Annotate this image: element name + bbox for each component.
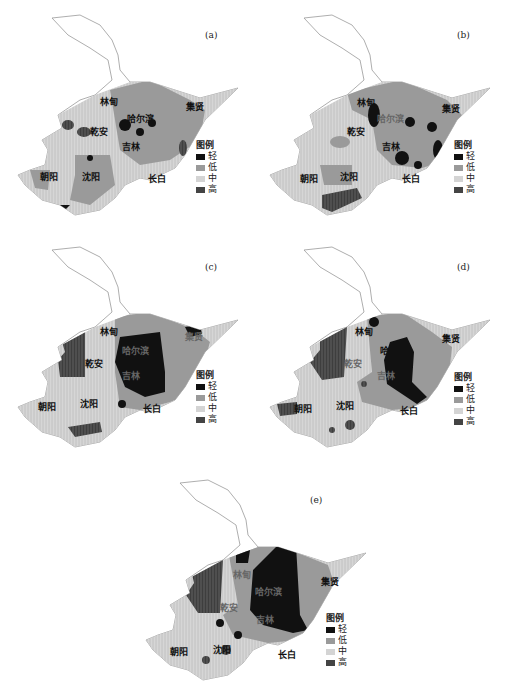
city-qianan: 乾安: [344, 357, 362, 370]
city-changbai: 长白: [402, 172, 420, 185]
city-jixian: 集贤: [442, 102, 460, 115]
swatch-icon: [454, 187, 463, 193]
city-jilin: 吉林: [122, 369, 140, 382]
legend-item-light: 轻: [454, 151, 475, 162]
legend-title: 图例: [326, 613, 347, 624]
legend-item-mid: 中: [196, 403, 217, 414]
city-linxian: 林甸: [355, 325, 373, 338]
legend-item-low: 低: [196, 392, 217, 403]
city-chaoyang: 朝阳: [294, 402, 312, 415]
map-panel-e: (e) 林甸 哈尔滨 集贤 乾安 吉林 朝阳 沈阳 长白 图例 轻 低 中 高: [128, 465, 378, 690]
swatch-icon: [196, 176, 205, 182]
legend: 图例 轻 低 中 高: [196, 140, 217, 195]
swatch-icon: [326, 627, 335, 633]
city-jixian: 集贤: [185, 330, 203, 343]
legend-item-mid: 中: [454, 405, 475, 416]
panel-label: (c): [205, 262, 217, 272]
city-linxian: 林甸: [100, 325, 118, 338]
city-linxian: 林甸: [233, 568, 251, 581]
legend: 图例 轻 低 中 高: [454, 140, 475, 195]
city-chaoyang: 朝阳: [170, 645, 188, 658]
city-shenyang: 沈阳: [80, 397, 98, 410]
map-panel-d: (d) 林甸 哈尔滨 集贤 乾安 吉林 朝阳 沈阳 长白 图例 轻 低 中 高: [252, 232, 502, 457]
swatch-icon: [196, 187, 205, 193]
swatch-icon: [454, 408, 463, 414]
city-chaoyang: 朝阳: [40, 170, 58, 183]
swatch-icon: [196, 395, 205, 401]
city-chaoyang: 朝阳: [38, 400, 56, 413]
city-shenyang: 沈阳: [82, 170, 100, 183]
swatch-icon: [326, 638, 335, 644]
city-harbin: 哈尔滨: [380, 344, 407, 357]
city-jilin: 吉林: [377, 369, 395, 382]
legend-item-low: 低: [326, 635, 347, 646]
legend-item-high: 高: [196, 184, 217, 195]
swatch-icon: [454, 397, 463, 403]
city-chaoyang: 朝阳: [300, 172, 318, 185]
legend-item-light: 轻: [454, 383, 475, 394]
city-shenyang: 沈阳: [336, 399, 354, 412]
legend-item-high: 高: [326, 657, 347, 668]
panel-label: (d): [457, 262, 470, 272]
city-qianan: 乾安: [85, 357, 103, 370]
city-jilin: 吉林: [122, 140, 140, 153]
city-changbai: 长白: [278, 648, 296, 661]
city-harbin: 哈尔滨: [127, 112, 154, 125]
legend-title: 图例: [196, 140, 217, 151]
city-jixian: 集贤: [442, 332, 460, 345]
city-qianan: 乾安: [220, 601, 238, 614]
map-panel-a: (a) 林甸 哈尔滨 集贤 乾安 吉林 朝阳 沈阳 长白 图例 轻 低 中 高: [0, 0, 250, 225]
city-jixian: 集贤: [186, 100, 204, 113]
legend: 图例 轻 低 中 高: [326, 613, 347, 668]
legend-item-mid: 中: [196, 173, 217, 184]
legend-item-low: 低: [454, 162, 475, 173]
city-shenyang: 沈阳: [340, 170, 358, 183]
city-shenyang: 沈阳: [213, 643, 231, 656]
city-harbin: 哈尔滨: [122, 344, 149, 357]
swatch-icon: [454, 386, 463, 392]
city-linxian: 林甸: [357, 96, 375, 109]
city-jilin: 吉林: [256, 613, 274, 626]
legend-item-mid: 中: [454, 173, 475, 184]
city-qianan: 乾安: [90, 125, 108, 138]
swatch-icon: [196, 384, 205, 390]
swatch-icon: [326, 660, 335, 666]
legend-item-high: 高: [196, 414, 217, 425]
city-changbai: 长白: [148, 172, 166, 185]
swatch-icon: [196, 165, 205, 171]
swatch-icon: [196, 406, 205, 412]
legend-item-light: 轻: [326, 624, 347, 635]
map-panel-c: (c) 林甸 哈尔滨 集贤 乾安 吉林 朝阳 沈阳 长白 图例 轻 低 中 高: [0, 232, 250, 457]
legend-item-low: 低: [454, 394, 475, 405]
city-qianan: 乾安: [347, 125, 365, 138]
panel-label: (e): [310, 495, 322, 505]
legend-item-light: 轻: [196, 151, 217, 162]
city-linxian: 林甸: [100, 95, 118, 108]
legend-title: 图例: [196, 370, 217, 381]
swatch-icon: [454, 154, 463, 160]
city-changbai: 长白: [400, 404, 418, 417]
swatch-icon: [326, 649, 335, 655]
legend: 图例 轻 低 中 高: [454, 372, 475, 427]
swatch-icon: [454, 165, 463, 171]
city-harbin: 哈尔滨: [255, 585, 282, 598]
city-jixian: 集贤: [321, 575, 339, 588]
panel-label: (b): [457, 30, 470, 40]
legend: 图例 轻 低 中 高: [196, 370, 217, 425]
legend-item-high: 高: [454, 416, 475, 427]
legend-title: 图例: [454, 372, 475, 383]
swatch-icon: [454, 176, 463, 182]
legend-item-mid: 中: [326, 646, 347, 657]
legend-item-high: 高: [454, 184, 475, 195]
city-jilin: 吉林: [382, 140, 400, 153]
swatch-icon: [196, 417, 205, 423]
city-changbai: 长白: [143, 402, 161, 415]
legend-item-light: 轻: [196, 381, 217, 392]
panel-label: (a): [205, 30, 217, 40]
legend-item-low: 低: [196, 162, 217, 173]
swatch-icon: [454, 419, 463, 425]
map-panel-b: (b) 林甸 哈尔滨 集贤 乾安 吉林 朝阳 沈阳 长白 图例 轻 低 中 高: [252, 0, 502, 225]
city-harbin: 哈尔滨: [377, 112, 404, 125]
legend-title: 图例: [454, 140, 475, 151]
swatch-icon: [196, 154, 205, 160]
